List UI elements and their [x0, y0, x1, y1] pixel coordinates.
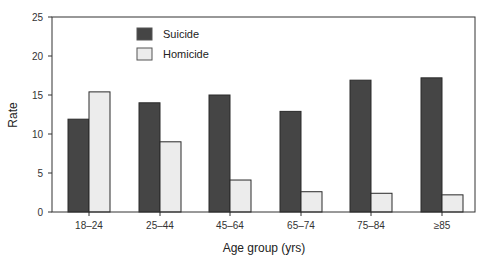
y-tick-label: 15	[32, 90, 44, 101]
suicide-bar	[421, 78, 442, 212]
y-tick-label: 5	[37, 168, 43, 179]
y-tick-label: 10	[32, 129, 44, 140]
suicide-bar	[280, 111, 301, 212]
y-tick-label: 25	[32, 12, 44, 23]
suicide-legend-swatch	[137, 28, 152, 40]
x-tick-label: 18–24	[75, 220, 103, 231]
x-axis-title: Age group (yrs)	[223, 241, 306, 255]
homicide-bar	[442, 195, 463, 212]
homicide-bar	[230, 180, 251, 212]
suicide-bar	[139, 103, 160, 212]
x-tick-label: 65–74	[287, 220, 315, 231]
y-tick-label: 0	[37, 207, 43, 218]
homicide-bar	[301, 192, 322, 212]
x-tick-label: 45–64	[216, 220, 244, 231]
suicide-legend-label: Suicide	[163, 28, 199, 40]
x-tick-label: 25–44	[146, 220, 174, 231]
plot-frame	[52, 17, 475, 212]
homicide-bar	[89, 92, 110, 212]
bars-group	[68, 78, 463, 212]
suicide-bar	[68, 119, 89, 212]
legend: SuicideHomicide	[137, 28, 209, 60]
homicide-legend-label: Homicide	[163, 48, 209, 60]
x-tick-label: 75–84	[357, 220, 385, 231]
y-tick-label: 20	[32, 51, 44, 62]
homicide-legend-swatch	[137, 48, 152, 60]
y-axis-title: Rate	[6, 102, 20, 128]
suicide-bar	[209, 95, 230, 212]
bar-chart: 051015202518–2425–4445–6465–7475–84≥85 S…	[0, 0, 483, 266]
x-tick-label: ≥85	[434, 220, 451, 231]
homicide-bar	[371, 193, 392, 212]
suicide-bar	[350, 80, 371, 212]
homicide-bar	[160, 142, 181, 212]
